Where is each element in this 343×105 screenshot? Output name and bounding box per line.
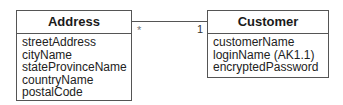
address-attributes: streetAddress cityName stateProvinceName… <box>17 34 131 99</box>
customer-multiplicity: 1 <box>197 23 203 35</box>
address-class-name: Address <box>17 11 131 34</box>
association-line <box>131 21 208 22</box>
customer-class-box: Customer customerName loginName (AK1.1) … <box>207 10 329 78</box>
attribute: stateProvinceName <box>22 61 131 74</box>
address-class-box: Address streetAddress cityName stateProv… <box>16 10 132 101</box>
customer-class-name: Customer <box>208 11 328 34</box>
attribute: streetAddress <box>22 36 131 49</box>
attribute: postalCode <box>22 86 131 99</box>
address-multiplicity: * <box>137 24 141 36</box>
attribute: customerName <box>213 36 328 49</box>
attribute: encryptedPassword <box>213 61 328 74</box>
customer-attributes: customerName loginName (AK1.1) encrypted… <box>208 34 328 74</box>
